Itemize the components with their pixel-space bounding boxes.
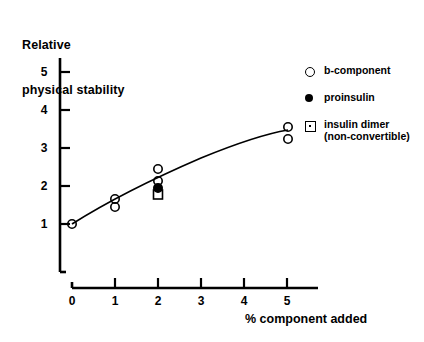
chart-figure: Relative physical stability — [0, 0, 424, 342]
y-tick-label: 4 — [36, 103, 52, 117]
y-axis-ticks — [60, 72, 70, 224]
y-tick-label: 2 — [36, 179, 52, 193]
legend: b-component proinsulin insulin dimer (no… — [305, 64, 423, 156]
data-point-open-circle — [284, 123, 292, 131]
y-tick-label: 1 — [36, 217, 52, 231]
legend-item-proinsulin: proinsulin — [305, 91, 423, 104]
y-tick-label: 3 — [36, 141, 52, 155]
x-tick-label: 4 — [236, 294, 252, 308]
plot-canvas — [0, 0, 424, 342]
filled-circle-icon — [305, 92, 317, 104]
data-point-open-circle — [284, 135, 292, 143]
x-tick-label: 3 — [193, 294, 209, 308]
square-icon — [305, 119, 317, 131]
trend-curve — [72, 130, 288, 224]
data-markers — [68, 123, 292, 228]
legend-label: proinsulin — [324, 91, 375, 103]
x-axis-ticks — [115, 278, 287, 288]
legend-label: b-component — [324, 64, 391, 76]
legend-label: insulin dimer (non-convertible) — [324, 118, 410, 142]
data-point-open-circle — [154, 165, 162, 173]
x-tick-label: 2 — [150, 294, 166, 308]
x-axis-title: % component added — [245, 312, 367, 326]
x-tick-label: 0 — [64, 294, 80, 308]
data-point-filled-circle — [154, 184, 162, 192]
legend-item-b-component: b-component — [305, 64, 423, 77]
y-tick-label: 5 — [36, 65, 52, 79]
open-circle-icon — [305, 65, 317, 77]
legend-item-insulin-dimer: insulin dimer (non-convertible) — [305, 118, 423, 142]
x-tick-label: 1 — [107, 294, 123, 308]
data-point-open-circle — [111, 203, 119, 211]
x-tick-label: 5 — [279, 294, 295, 308]
